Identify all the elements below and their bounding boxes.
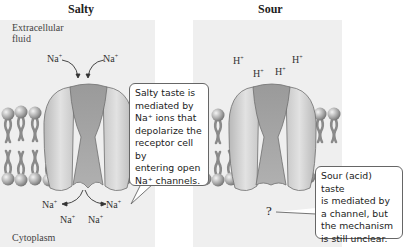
salty-callout-line: Na⁺ ions that (135, 112, 203, 125)
sour-callout-line: is mediated by (321, 195, 397, 208)
salty-callout-line: entering open (135, 162, 203, 175)
salty-ion-channel (44, 84, 133, 191)
na-ion-inside-2: Na+ (106, 199, 121, 210)
h-ion-2: H+ (253, 68, 264, 79)
na-ion-outside-2: Na+ (103, 53, 118, 64)
extracellular-fluid-label: Extracellular fluid (12, 22, 64, 44)
h-ion-4: H+ (292, 54, 303, 65)
extracellular-label-line2: fluid (12, 33, 64, 44)
salty-callout-pointer (131, 184, 153, 204)
na-ion-inside-4: Na+ (88, 214, 103, 225)
cytoplasm-label: Cytoplasm (12, 232, 55, 243)
sour-callout-pointer (276, 208, 316, 214)
h-ion-3: H+ (275, 66, 286, 77)
na-ion-outside-1: Na+ (47, 53, 62, 64)
sour-ion-channel (229, 84, 316, 191)
sour-callout-line: the mechanism (321, 220, 397, 233)
na-ion-inside-1: Na+ (42, 199, 57, 210)
salty-callout-line: depolarize the (135, 125, 203, 138)
sour-callout: Sour (acid) taste is mediated by a chann… (315, 166, 403, 239)
h-ion-1: H+ (233, 55, 244, 66)
unknown-mechanism-mark: ? (266, 203, 272, 219)
extracellular-label-line1: Extracellular (12, 22, 64, 33)
sour-callout-line: a channel, but (321, 208, 397, 221)
sour-callout-line: Sour (acid) taste (321, 170, 397, 195)
na-ion-inside-3: Na+ (60, 214, 75, 225)
salty-callout-line: Na⁺ channels. (135, 175, 203, 188)
salty-callout-line: receptor cell by (135, 137, 203, 162)
salty-callout-line: mediated by (135, 100, 203, 113)
salty-callout: Salty taste is mediated by Na⁺ ions that… (129, 83, 209, 186)
sour-callout-line: is still unclear. (321, 233, 397, 246)
salty-callout-line: Salty taste is (135, 87, 203, 100)
